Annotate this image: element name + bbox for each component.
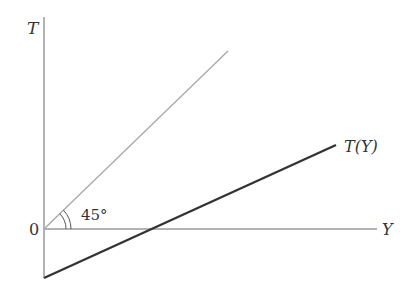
angle-label: 45° bbox=[81, 206, 108, 224]
angle-arc-outer bbox=[63, 210, 71, 229]
vertical-axis-label: T bbox=[27, 18, 40, 38]
45-degree-line bbox=[44, 51, 228, 229]
tax-function-diagram: T 0 Y T(Y) 45° bbox=[0, 0, 413, 299]
tax-function-label: T(Y) bbox=[344, 137, 378, 156]
horizontal-axis-label: Y bbox=[382, 220, 394, 239]
angle-arc-inner bbox=[60, 214, 66, 229]
origin-label: 0 bbox=[29, 220, 39, 239]
